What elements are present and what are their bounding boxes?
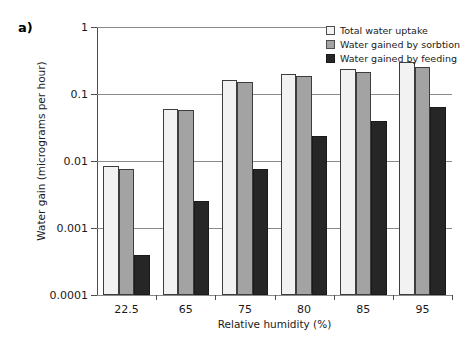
x-axis-tick-label: 22.5: [114, 303, 139, 316]
x-axis-tick-label: 75: [238, 303, 252, 316]
bar: [430, 107, 446, 295]
y-axis-tick: [91, 161, 97, 162]
x-axis-tick: [393, 295, 394, 300]
y-axis-tick-label: 0.0001: [50, 289, 89, 302]
bar: [178, 110, 194, 295]
y-axis-tick: [91, 27, 97, 28]
bar: [194, 201, 210, 295]
bar: [340, 69, 356, 295]
y-axis-tick-label: 0.001: [57, 222, 89, 235]
plot-area: 0.00010.0010.010.11 22.56575808595: [97, 27, 452, 295]
bar: [312, 136, 328, 295]
bar: [253, 169, 269, 295]
chart-legend: Total water uptakeWater gained by sorbti…: [326, 25, 460, 64]
x-axis-tick-label: 85: [356, 303, 370, 316]
x-axis-tick: [215, 295, 216, 300]
legend-item: Water gained by sorbtion: [326, 39, 460, 50]
legend-swatch-icon: [326, 54, 335, 63]
bar: [103, 166, 119, 295]
bar: [415, 67, 431, 295]
bar: [399, 62, 415, 295]
bar: [163, 109, 179, 295]
bar: [134, 255, 150, 295]
bar: [119, 169, 135, 295]
legend-swatch-icon: [326, 40, 335, 49]
x-axis-tick-label: 80: [297, 303, 311, 316]
legend-label: Total water uptake: [340, 25, 428, 36]
y-axis-tick: [91, 228, 97, 229]
x-axis-tick-label: 65: [179, 303, 193, 316]
legend-item: Water gained by feeding: [326, 53, 460, 64]
x-axis-tick: [452, 295, 453, 300]
y-axis-tick-label: 1: [81, 21, 88, 34]
bar: [356, 72, 372, 295]
bar: [237, 82, 253, 295]
y-axis-tick-label: 0.01: [64, 155, 89, 168]
gridline: [97, 27, 329, 28]
bar: [222, 80, 238, 295]
legend-label: Water gained by sorbtion: [340, 39, 460, 50]
y-axis-tick: [91, 94, 97, 95]
legend-label: Water gained by feeding: [340, 53, 457, 64]
y-axis-tick: [91, 295, 97, 296]
bar: [371, 121, 387, 295]
legend-swatch-icon: [326, 26, 335, 35]
x-axis-tick-label: 95: [415, 303, 429, 316]
x-axis-title: Relative humidity (%): [97, 318, 452, 330]
panel-label: a): [18, 20, 33, 35]
x-axis-tick: [156, 295, 157, 300]
bar: [281, 74, 297, 295]
y-axis-title: Water gain (micrograms per hour): [35, 46, 47, 256]
y-axis-tick-label: 0.1: [71, 88, 89, 101]
bar: [296, 76, 312, 295]
x-axis-tick: [275, 295, 276, 300]
legend-item: Total water uptake: [326, 25, 460, 36]
figure-panel-a: a) Water gain (micrograms per hour) Rela…: [0, 0, 472, 343]
x-axis-tick: [334, 295, 335, 300]
